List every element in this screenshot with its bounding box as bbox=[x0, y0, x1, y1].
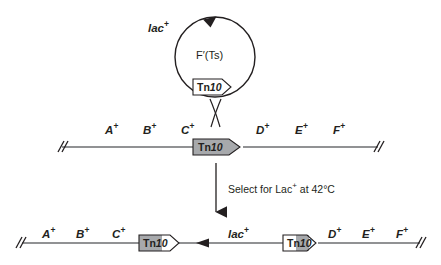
chromosome-bottom-gene-F: F+ bbox=[396, 226, 408, 240]
chromosome-bottom-left-tn10-label: Tn10 bbox=[143, 238, 168, 249]
diagram-canvas: lac+ F′(Ts) Tn10 A+ B+ C+ D+ E+ F+ Tn10 … bbox=[0, 0, 441, 265]
chromosome-top-gene-A: A+ bbox=[105, 122, 119, 136]
selection-step-label: Select for Lac+ at 42°C bbox=[228, 182, 335, 194]
chromosome-top-gene-E: E+ bbox=[295, 122, 308, 136]
chromosome-bottom-gene-D: D+ bbox=[328, 226, 342, 240]
plasmid-lac-marker-label: lac+ bbox=[148, 20, 169, 34]
chromosome-bottom-gene-A: A+ bbox=[42, 226, 56, 240]
crossover-x-symbol bbox=[210, 99, 221, 127]
chromosome-bottom-lac-marker-label: lac+ bbox=[228, 226, 249, 240]
chromosome-bottom-gene-E: E+ bbox=[362, 226, 375, 240]
chromosome-top-gene-F: F+ bbox=[333, 122, 345, 136]
chromosome-bottom-gene-B: B+ bbox=[76, 226, 90, 240]
chromosome-top-gene-D: D+ bbox=[256, 122, 270, 136]
chromosome-top-gene-B: B+ bbox=[143, 122, 157, 136]
chromosome-bottom-gene-C: C+ bbox=[112, 226, 126, 240]
chromosome-bottom-right-tn10-label: Tn10 bbox=[287, 238, 312, 249]
plasmid-name-label: F′(Ts) bbox=[196, 50, 223, 61]
transfer-direction-arrowhead bbox=[196, 239, 209, 248]
chromosome-top-gene-C: C+ bbox=[181, 122, 195, 136]
chromosome-top-tn10-label: Tn10 bbox=[198, 142, 223, 153]
plasmid-tn10-label: Tn10 bbox=[197, 82, 222, 93]
